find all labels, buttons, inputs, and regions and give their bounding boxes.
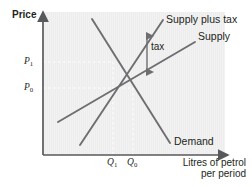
price-tick-p1: P1 xyxy=(24,56,33,66)
quantity-tick-q0-subscript: 0 xyxy=(134,161,137,168)
quantity-tick-q1-subscript: 1 xyxy=(114,161,117,168)
price-tick-p1-subscript: 1 xyxy=(30,60,33,67)
price-tick-p1-symbol: P xyxy=(24,56,30,66)
x-axis-label-line2: per period xyxy=(201,168,246,179)
demand-label: Demand xyxy=(174,136,214,147)
price-tick-p0-subscript: 0 xyxy=(30,86,33,93)
quantity-tick-q1: Q1 xyxy=(107,157,117,167)
price-tick-p0-symbol: P xyxy=(24,82,30,92)
price-tick-p0: P0 xyxy=(24,82,33,92)
x-axis-label-line1: Litres of petrol xyxy=(183,157,246,168)
quantity-tick-q1-symbol: Q xyxy=(107,157,114,167)
x-axis-label: Litres of petrol per period xyxy=(168,158,246,180)
supply-plus-tax-label: Supply plus tax xyxy=(166,14,237,25)
quantity-tick-q0-symbol: Q xyxy=(127,157,134,167)
tax-label: tax xyxy=(151,42,164,53)
supply-label: Supply xyxy=(198,31,230,42)
y-axis-label: Price xyxy=(12,10,36,21)
quantity-tick-q0: Q0 xyxy=(127,157,137,167)
supply-demand-diagram: Price Litres of petrol per period Supply… xyxy=(0,0,252,187)
